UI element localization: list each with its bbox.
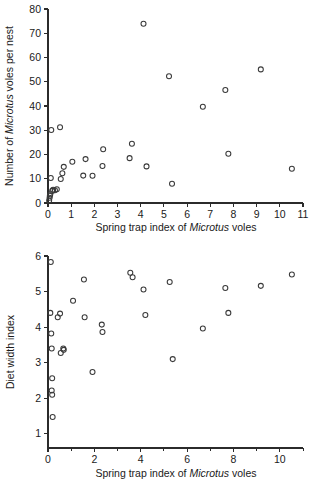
x-tick-label: 0 bbox=[45, 208, 51, 220]
y-tick-label: 50 bbox=[29, 75, 41, 87]
y-tick-label: 60 bbox=[29, 51, 41, 63]
data-point bbox=[200, 326, 205, 331]
x-tick-label: 2 bbox=[91, 208, 97, 220]
y-tick-label: 70 bbox=[29, 27, 41, 39]
data-point bbox=[144, 164, 149, 169]
data-point bbox=[83, 157, 88, 162]
data-point bbox=[289, 272, 294, 277]
x-tick-label: 4 bbox=[138, 208, 144, 220]
y-tick-label: 80 bbox=[29, 3, 41, 15]
x-tick-label: 4 bbox=[138, 453, 144, 465]
data-point bbox=[289, 166, 294, 171]
data-point bbox=[81, 277, 86, 282]
data-point bbox=[258, 283, 263, 288]
data-point bbox=[81, 173, 86, 178]
data-points-top bbox=[47, 21, 295, 203]
y-tick-label: 20 bbox=[29, 148, 41, 160]
data-point bbox=[48, 310, 53, 315]
y-tick-label: 3 bbox=[35, 356, 41, 368]
data-points-bottom bbox=[48, 260, 295, 420]
data-point bbox=[101, 147, 106, 152]
data-point bbox=[90, 369, 95, 374]
x-axis-title-top: Spring trap index of Microtus voles bbox=[95, 221, 256, 233]
data-point bbox=[167, 279, 172, 284]
data-point bbox=[258, 67, 263, 72]
data-point bbox=[167, 74, 172, 79]
data-point bbox=[226, 310, 231, 315]
y-axis-title-top: Number of Microtus voles per nest bbox=[3, 26, 15, 186]
x-tick-label: 11 bbox=[298, 208, 309, 220]
data-point bbox=[100, 163, 105, 168]
x-tick-label: 8 bbox=[231, 453, 237, 465]
scatter-plot-voles-per-nest: 01020304050607080 01234567891011 Spring … bbox=[0, 0, 318, 242]
x-axis-ticks-top: 01234567891011 bbox=[45, 203, 309, 220]
x-tick-label: 3 bbox=[115, 208, 121, 220]
data-point bbox=[58, 125, 63, 130]
data-point bbox=[60, 171, 65, 176]
y-tick-label: 10 bbox=[29, 172, 41, 184]
data-point bbox=[99, 322, 104, 327]
x-tick-label: 5 bbox=[161, 208, 167, 220]
data-point bbox=[49, 346, 54, 351]
x-tick-label: 10 bbox=[274, 453, 286, 465]
y-axis-ticks-top: 01020304050607080 bbox=[29, 3, 48, 209]
figure-two-scatter-panels: 01020304050607080 01234567891011 Spring … bbox=[0, 0, 318, 484]
y-tick-label: 40 bbox=[29, 100, 41, 112]
x-tick-label: 10 bbox=[274, 208, 286, 220]
chart-panel-voles-per-nest: 01020304050607080 01234567891011 Spring … bbox=[0, 0, 318, 242]
data-point bbox=[223, 286, 228, 291]
x-tick-label: 0 bbox=[45, 453, 51, 465]
data-point bbox=[49, 331, 54, 336]
y-tick-label: 6 bbox=[35, 250, 41, 262]
data-point bbox=[130, 275, 135, 280]
data-point bbox=[200, 104, 205, 109]
data-point bbox=[129, 141, 134, 146]
x-axis-title-bottom: Spring trap index of Microtus voles bbox=[95, 467, 256, 479]
data-point bbox=[48, 176, 53, 181]
data-point bbox=[90, 173, 95, 178]
data-point bbox=[170, 357, 175, 362]
data-point bbox=[127, 156, 132, 161]
axes-bottom bbox=[48, 256, 303, 448]
y-tick-label: 0 bbox=[35, 197, 41, 209]
x-tick-label: 1 bbox=[68, 208, 74, 220]
y-axis-ticks-bottom: 123456 bbox=[35, 250, 48, 440]
x-tick-label: 8 bbox=[231, 208, 237, 220]
data-point bbox=[70, 159, 75, 164]
x-tick-label: 2 bbox=[91, 453, 97, 465]
x-axis-ticks-bottom: 0246810 bbox=[45, 448, 303, 465]
y-tick-label: 4 bbox=[35, 321, 41, 333]
data-point bbox=[100, 330, 105, 335]
data-point bbox=[141, 287, 146, 292]
data-point bbox=[223, 88, 228, 93]
chart-panel-diet-width: 123456 0246810 Spring trap index of Micr… bbox=[0, 242, 318, 484]
y-tick-label: 1 bbox=[35, 427, 41, 439]
data-point bbox=[141, 21, 146, 26]
data-point bbox=[82, 315, 87, 320]
x-tick-label: 6 bbox=[184, 453, 190, 465]
x-tick-label: 9 bbox=[254, 208, 260, 220]
x-tick-label: 7 bbox=[207, 208, 213, 220]
data-point bbox=[50, 376, 55, 381]
y-axis-title-bottom: Diet width index bbox=[4, 314, 16, 389]
data-point bbox=[226, 151, 231, 156]
data-point bbox=[143, 313, 148, 318]
scatter-plot-diet-width: 123456 0246810 Spring trap index of Micr… bbox=[0, 242, 318, 484]
data-point bbox=[49, 128, 54, 133]
axes-top bbox=[48, 9, 303, 203]
data-point bbox=[58, 176, 63, 181]
data-point bbox=[71, 298, 76, 303]
y-tick-label: 30 bbox=[29, 124, 41, 136]
data-point bbox=[50, 415, 55, 420]
x-tick-label: 6 bbox=[184, 208, 190, 220]
y-tick-label: 5 bbox=[35, 285, 41, 297]
data-point bbox=[170, 181, 175, 186]
data-point bbox=[61, 164, 66, 169]
data-point bbox=[48, 260, 53, 265]
y-tick-label: 2 bbox=[35, 392, 41, 404]
